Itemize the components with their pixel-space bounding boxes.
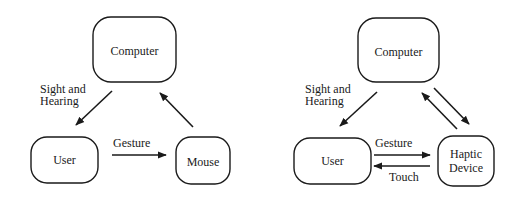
left-user-label: User <box>53 153 76 167</box>
left-mouse-label: Mouse <box>187 155 220 169</box>
right-haptic-label-line1: Haptic <box>450 147 482 161</box>
left-computer-label: Computer <box>111 44 159 58</box>
right-arrow-device-to-computer <box>422 93 457 129</box>
right-touch-label: Touch <box>389 170 419 184</box>
left-diagram: Computer User Mouse Sight and Hearing Ge… <box>31 17 230 184</box>
right-arrow-computer-to-device <box>434 88 469 124</box>
right-arrow-computer-to-user <box>340 92 377 126</box>
right-haptic-label-line2: Device <box>449 161 483 175</box>
right-diagram: Computer User Haptic Device Sight and He… <box>294 18 494 186</box>
left-arrow-mouse-to-computer <box>160 93 193 127</box>
left-sight-label-line2: Hearing <box>40 94 79 108</box>
right-gesture-label: Gesture <box>375 136 412 150</box>
left-gesture-label: Gesture <box>113 136 150 150</box>
right-user-label: User <box>321 154 344 168</box>
right-computer-label: Computer <box>375 45 423 59</box>
right-sight-label-line2: Hearing <box>305 94 344 108</box>
left-arrow-computer-to-user <box>76 91 112 125</box>
diagram-canvas: Computer User Mouse Sight and Hearing Ge… <box>0 0 520 199</box>
